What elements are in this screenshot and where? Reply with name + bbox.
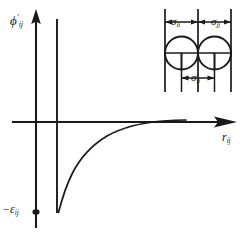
inset-arrow-sigma-ii-right — [191, 19, 198, 24]
inset-label-sigma-ii-subscript: ii — [176, 21, 180, 28]
y-axis-tick-label-subscript: ij — [15, 208, 19, 217]
potential-curve — [59, 120, 187, 213]
y-axis-label-main: ϕ — [10, 13, 17, 28]
inset-label-sigma-jj-subscript: jj — [216, 21, 220, 28]
inset-arrow-sigma-jj-left — [198, 19, 205, 24]
potential-energy-figure: ϕ′ij rij −εij σii σjj σij — [0, 0, 248, 236]
inset-label-sigma-ii: σii — [171, 16, 180, 27]
y-axis-label: ϕ′ij — [10, 14, 23, 27]
inset-arrow-sigma-ij-right — [208, 75, 215, 80]
inset-arrow-sigma-ij-left — [182, 75, 189, 80]
x-axis-label: rij — [222, 131, 231, 143]
y-axis-label-subscript: ij — [19, 20, 23, 29]
y-axis-tick-label-main: −ε — [2, 202, 15, 216]
x-axis-label-subscript: ij — [227, 136, 231, 145]
inset-label-sigma-ij: σij — [191, 72, 200, 83]
y-axis-tick-label: −εij — [2, 203, 19, 215]
y-axis-tick-mark — [33, 210, 40, 215]
inset-label-sigma-jj: σjj — [211, 16, 220, 27]
inset-arrow-sigma-jj-right — [224, 19, 231, 24]
figure-canvas — [0, 0, 248, 236]
inset-label-sigma-ij-subscript: ij — [196, 77, 200, 84]
x-axis-label-main: r — [222, 130, 227, 144]
